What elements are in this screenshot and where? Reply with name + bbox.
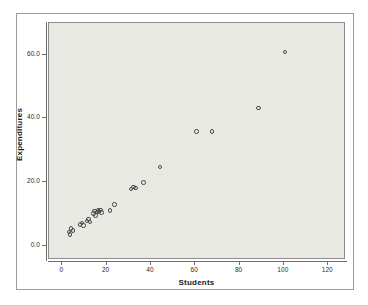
x-axis-tick-label: 60	[179, 266, 209, 273]
x-axis-tick-label: 0	[46, 266, 76, 273]
y-axis-tick	[42, 54, 46, 55]
data-point	[108, 208, 112, 212]
scatter-plot-figure: 0204060801001200.020.040.060.0 Students …	[0, 0, 368, 305]
plot-area	[48, 22, 345, 259]
x-axis-tick	[194, 261, 195, 265]
x-axis-tick	[61, 261, 62, 265]
x-axis-title: Students	[48, 278, 345, 287]
y-axis-tick	[42, 245, 46, 246]
data-point	[112, 202, 116, 206]
x-axis-tick-label: 120	[312, 266, 342, 273]
data-point	[68, 232, 72, 236]
y-axis-tick-label: 60.0	[6, 50, 40, 57]
data-point	[194, 129, 198, 133]
x-axis-tick	[239, 261, 240, 265]
data-point	[141, 180, 145, 184]
y-axis-title: Expenditures	[15, 75, 24, 195]
x-axis-tick-label: 40	[135, 266, 165, 273]
y-axis-tick	[42, 117, 46, 118]
x-axis-tick	[327, 261, 328, 265]
x-axis-line	[48, 261, 347, 262]
data-point	[256, 106, 260, 110]
data-point	[71, 228, 75, 232]
y-axis-tick-label: 0.0	[6, 241, 40, 248]
data-point	[158, 165, 162, 169]
x-axis-tick	[283, 261, 284, 265]
data-point	[81, 223, 85, 227]
data-point	[99, 210, 103, 214]
x-axis-tick	[150, 261, 151, 265]
y-axis-line	[46, 22, 47, 261]
x-axis-tick-label: 80	[224, 266, 254, 273]
data-point	[133, 186, 137, 190]
x-axis-tick	[106, 261, 107, 265]
data-point	[210, 129, 214, 133]
x-axis-tick-label: 20	[91, 266, 121, 273]
y-axis-tick	[42, 181, 46, 182]
x-axis-tick-label: 100	[268, 266, 298, 273]
